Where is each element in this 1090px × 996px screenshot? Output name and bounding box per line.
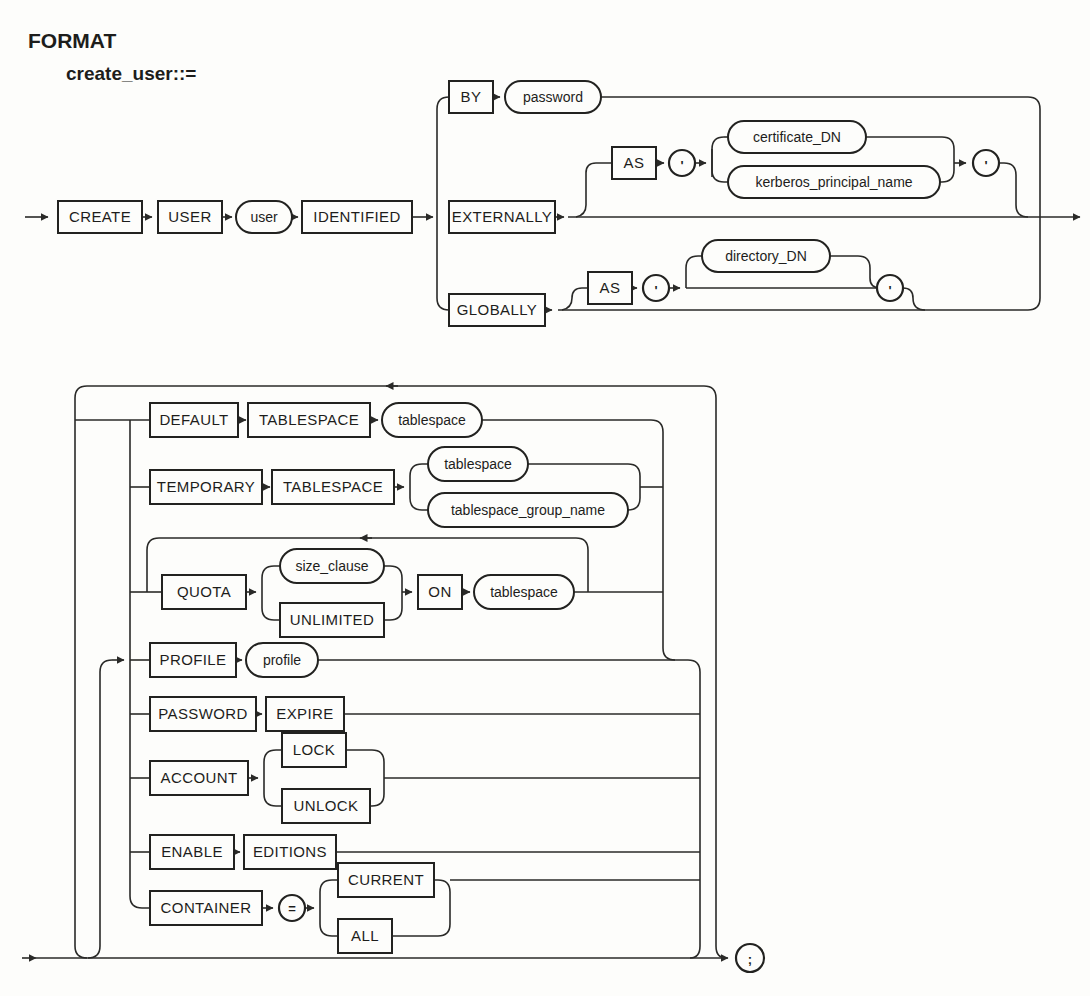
create-keyword-label: CREATE: [69, 208, 131, 225]
open-quote-label-externally: ': [680, 158, 683, 173]
lock-keyword-label: LOCK: [293, 741, 335, 758]
tablespace-parameter-oval-quota: tablespace: [474, 575, 574, 609]
expire-keyword-box: EXPIRE: [266, 697, 344, 731]
close-quote-label-globally: ': [888, 283, 891, 298]
tablespace-keyword-label-temporary: TABLESPACE: [283, 478, 383, 495]
create-user-railroad-diagram: FORMAT create_user::=: [0, 0, 1090, 996]
user-parameter-label: user: [250, 209, 278, 225]
create-keyword-box: CREATE: [58, 201, 142, 233]
close-quote-literal-externally: ': [973, 150, 999, 176]
expire-keyword-label: EXPIRE: [276, 705, 333, 722]
profile-keyword-label: PROFILE: [160, 651, 227, 668]
profile-keyword-box: PROFILE: [150, 643, 236, 677]
password-parameter-label: password: [523, 89, 583, 105]
format-heading: FORMAT: [28, 29, 116, 52]
user-keyword-label: USER: [168, 208, 211, 225]
unlock-keyword-label: UNLOCK: [294, 797, 359, 814]
tablespace-keyword-box-default: TABLESPACE: [248, 403, 370, 437]
rule-name-heading: create_user::=: [66, 63, 196, 84]
globally-keyword-label: GLOBALLY: [457, 301, 537, 318]
close-quote-label-externally: ': [984, 158, 987, 173]
size-clause-parameter-oval: size_clause: [280, 549, 384, 583]
account-keyword-label: ACCOUNT: [161, 769, 238, 786]
close-quote-literal-globally: ': [877, 275, 903, 301]
password-parameter-oval: password: [505, 81, 601, 113]
unlimited-keyword-box: UNLIMITED: [280, 603, 384, 637]
directory-dn-label: directory_DN: [725, 248, 807, 264]
identified-keyword-box: IDENTIFIED: [302, 201, 412, 233]
temporary-keyword-label: TEMPORARY: [157, 478, 255, 495]
profile-parameter-oval: profile: [246, 643, 318, 677]
tablespace-group-name-parameter-oval: tablespace_group_name: [428, 493, 628, 527]
enable-keyword-label: ENABLE: [161, 843, 223, 860]
temporary-keyword-box: TEMPORARY: [150, 470, 262, 504]
user-parameter-oval: user: [236, 201, 292, 233]
profile-parameter-label: profile: [263, 652, 301, 668]
equals-literal-label: =: [288, 901, 296, 916]
unlimited-keyword-label: UNLIMITED: [290, 611, 374, 628]
by-keyword-box: BY: [449, 81, 493, 113]
size-clause-label: size_clause: [295, 558, 368, 574]
lock-keyword-box: LOCK: [282, 733, 346, 767]
globally-keyword-box: GLOBALLY: [449, 294, 545, 326]
syntax-diagram-page: FORMAT create_user::=: [0, 0, 1090, 996]
current-keyword-label: CURRENT: [348, 871, 424, 888]
semicolon-literal-label: ;: [748, 952, 752, 967]
externally-keyword-label: EXTERNALLY: [452, 208, 552, 225]
open-quote-label-globally: ': [654, 283, 657, 298]
as-keyword-label-globally: AS: [600, 279, 621, 296]
editions-keyword-label: EDITIONS: [253, 843, 327, 860]
tablespace-parameter-oval-temporary: tablespace: [428, 447, 528, 481]
tablespace-keyword-label-default: TABLESPACE: [259, 411, 359, 428]
tablespace-parameter-label-default: tablespace: [398, 412, 466, 428]
unlock-keyword-box: UNLOCK: [282, 789, 370, 823]
as-keyword-box-externally: AS: [612, 147, 656, 179]
on-keyword-box: ON: [418, 575, 462, 609]
tablespace-keyword-box-temporary: TABLESPACE: [272, 470, 394, 504]
default-keyword-label: DEFAULT: [159, 411, 228, 428]
by-keyword-label: BY: [461, 88, 482, 105]
as-keyword-label-externally: AS: [624, 154, 645, 171]
externally-keyword-box: EXTERNALLY: [449, 201, 555, 233]
container-keyword-label: CONTAINER: [161, 899, 252, 916]
directory-dn-parameter-oval: directory_DN: [702, 240, 830, 272]
certificate-dn-label: certificate_DN: [753, 129, 841, 145]
container-keyword-box: CONTAINER: [150, 891, 262, 925]
kerberos-principal-name-parameter-oval: kerberos_principal_name: [728, 166, 940, 198]
account-keyword-box: ACCOUNT: [150, 761, 248, 795]
kerberos-principal-name-label: kerberos_principal_name: [755, 174, 912, 190]
tablespace-parameter-label-quota: tablespace: [490, 584, 558, 600]
all-keyword-box: ALL: [338, 919, 392, 953]
editions-keyword-box: EDITIONS: [244, 835, 336, 869]
tablespace-parameter-oval-default: tablespace: [382, 403, 482, 437]
identified-keyword-label: IDENTIFIED: [313, 208, 400, 225]
open-quote-literal-globally: ': [643, 275, 669, 301]
password-keyword-box: PASSWORD: [150, 697, 256, 731]
enable-keyword-box: ENABLE: [150, 835, 234, 869]
default-keyword-box: DEFAULT: [150, 403, 238, 437]
semicolon-literal-circle: ;: [736, 944, 764, 972]
certificate-dn-parameter-oval: certificate_DN: [728, 121, 866, 153]
user-keyword-box: USER: [158, 201, 222, 233]
current-keyword-box: CURRENT: [338, 863, 434, 897]
quota-keyword-label: QUOTA: [177, 583, 231, 600]
as-keyword-box-globally: AS: [588, 272, 632, 304]
quota-keyword-box: QUOTA: [162, 575, 246, 609]
tablespace-group-name-label: tablespace_group_name: [451, 502, 605, 518]
tablespace-parameter-label-temporary: tablespace: [444, 456, 512, 472]
password-keyword-label: PASSWORD: [158, 705, 248, 722]
on-keyword-label: ON: [428, 583, 451, 600]
equals-literal-circle: =: [279, 895, 305, 921]
open-quote-literal-externally: ': [669, 150, 695, 176]
all-keyword-label: ALL: [351, 927, 379, 944]
